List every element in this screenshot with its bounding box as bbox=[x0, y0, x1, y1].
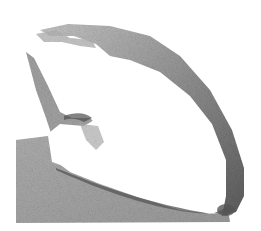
shell-render bbox=[0, 0, 261, 231]
shell-tip bbox=[217, 204, 235, 216]
render-canvas bbox=[0, 0, 261, 231]
